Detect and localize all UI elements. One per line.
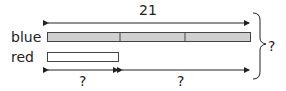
blue-label: blue — [11, 30, 41, 44]
red-bar — [48, 53, 119, 62]
brace — [253, 13, 266, 79]
blue-bar — [48, 33, 251, 42]
red-unknown-label: ? — [79, 74, 86, 88]
red-label: red — [11, 50, 34, 64]
total-label: 21 — [139, 3, 157, 17]
difference-unknown-label: ? — [177, 74, 184, 88]
total-unknown-label: ? — [268, 39, 275, 53]
